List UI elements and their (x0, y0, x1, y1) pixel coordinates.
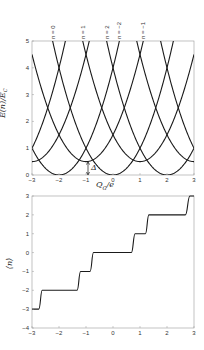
x-tick-label: 3 (192, 330, 196, 336)
y-tick-label: 4 (26, 65, 30, 71)
x-tick-label: 1 (138, 177, 142, 183)
y-tick-label: 3 (26, 92, 30, 98)
y-tick-label: 1 (26, 145, 30, 151)
x-tick-label: −1 (83, 177, 91, 183)
energy-curve (32, 14, 194, 175)
figure: −3−2−10123012345n = 0n = 1n = 2n = −2n =… (0, 0, 204, 350)
y-tick-label: −3 (22, 306, 30, 312)
x-tick-label: 2 (165, 177, 169, 183)
top-ylabel: E(n)/EC (0, 88, 8, 118)
y-tick-label: −2 (22, 287, 30, 293)
curve-label: n = −2 (116, 21, 122, 39)
energy-curve (32, 14, 194, 175)
curve-label: n = 0 (50, 25, 56, 39)
energy-plot: −3−2−10123012345n = 0n = 1n = 2n = −2n =… (26, 14, 197, 183)
ylabel-sub: C (2, 88, 8, 92)
xlabel-rest: /e (107, 180, 114, 189)
x-tick-label: 3 (192, 177, 196, 183)
top-xlabel: QG/e (96, 180, 114, 191)
bottom-axes-box (32, 196, 194, 328)
y-tick-label: 2 (26, 118, 30, 124)
x-tick-label: −3 (29, 177, 37, 183)
curve-label: n = −1 (140, 21, 146, 39)
x-tick-label: −2 (56, 177, 64, 183)
y-tick-label: 0 (26, 250, 30, 256)
y-tick-label: −4 (22, 325, 30, 331)
x-tick-label: −1 (83, 330, 91, 336)
x-tick-label: −3 (29, 330, 37, 336)
curve-label: n = 2 (104, 25, 110, 39)
x-tick-label: 1 (138, 330, 142, 336)
y-tick-label: 5 (26, 38, 30, 44)
y-tick-label: 1 (26, 231, 30, 237)
y-tick-label: −1 (22, 268, 30, 274)
y-tick-label: 2 (26, 212, 30, 218)
y-tick-label: 3 (26, 193, 30, 199)
ylabel-main: E(n)/E (0, 92, 7, 118)
x-tick-label: −2 (56, 330, 64, 336)
x-tick-label: 2 (165, 330, 169, 336)
mean-charge-curve (32, 196, 194, 309)
top-axes-box (32, 41, 194, 175)
curve-label: n = 1 (80, 25, 86, 39)
mean-charge-plot: −3−2−10123−4−3−2−10123 (22, 193, 196, 336)
energy-curve (32, 14, 194, 175)
delta-label: Δ (90, 163, 97, 172)
x-tick-label: 0 (111, 330, 115, 336)
bottom-ylabel: ⟨n⟩ (5, 258, 14, 269)
